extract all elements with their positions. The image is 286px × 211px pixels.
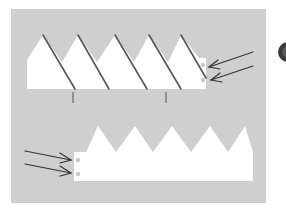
hole [76, 172, 80, 176]
hole [201, 63, 205, 67]
hole [76, 158, 80, 162]
hole [201, 78, 205, 82]
badge-icon [278, 42, 286, 62]
diagram-canvas [0, 0, 286, 211]
